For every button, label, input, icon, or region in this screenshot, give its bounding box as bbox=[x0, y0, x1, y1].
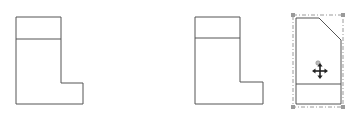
shape-outline bbox=[16, 17, 83, 104]
shape-outline bbox=[195, 17, 263, 104]
l-shape-1[interactable] bbox=[16, 17, 83, 104]
drawing-canvas[interactable] bbox=[0, 0, 356, 121]
resize-handle[interactable] bbox=[341, 13, 345, 17]
l-shape-2[interactable] bbox=[195, 17, 263, 104]
resize-handle[interactable] bbox=[291, 105, 295, 109]
resize-handle[interactable] bbox=[341, 105, 345, 109]
chamfered-shape-3[interactable] bbox=[291, 13, 345, 109]
resize-handle[interactable] bbox=[291, 13, 295, 17]
move-cursor-icon bbox=[312, 63, 328, 79]
